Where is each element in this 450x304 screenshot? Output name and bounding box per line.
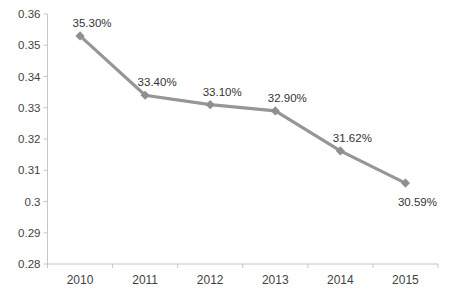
y-axis-tick-label: 0.3 bbox=[25, 196, 41, 208]
data-point-label: 33.40% bbox=[138, 76, 177, 88]
y-axis-tick-label: 0.33 bbox=[18, 102, 40, 114]
chart-canvas: 0.360.350.340.330.320.310.30.290.28 2010… bbox=[0, 0, 450, 304]
y-axis-tick-label: 0.32 bbox=[18, 133, 40, 145]
x-axis-category-label: 2010 bbox=[67, 273, 94, 287]
data-point-label: 33.10% bbox=[203, 86, 242, 98]
data-point-label: 32.90% bbox=[268, 92, 307, 104]
x-axis-category-label: 2014 bbox=[327, 273, 354, 287]
y-axis-tick-label: 0.36 bbox=[18, 8, 40, 20]
series-line bbox=[80, 36, 405, 183]
x-axis-category-label: 2013 bbox=[262, 273, 289, 287]
data-point-label: 35.30% bbox=[73, 17, 112, 29]
x-axis: 201020112012201320142015 bbox=[48, 264, 439, 287]
x-axis-category-label: 2012 bbox=[197, 273, 224, 287]
y-axis-tick-label: 0.29 bbox=[18, 227, 40, 239]
x-axis-category-label: 2015 bbox=[392, 273, 419, 287]
y-axis: 0.360.350.340.330.320.310.30.290.28 bbox=[18, 8, 47, 270]
data-point-label: 31.62% bbox=[333, 132, 372, 144]
line-chart: 0.360.350.340.330.320.310.30.290.28 2010… bbox=[0, 0, 450, 304]
line-series bbox=[75, 31, 410, 187]
y-axis-tick-label: 0.35 bbox=[18, 39, 40, 51]
y-axis-tick-label: 0.28 bbox=[18, 258, 40, 270]
y-axis-tick-label: 0.34 bbox=[18, 71, 41, 83]
data-point-label: 30.59% bbox=[398, 196, 437, 208]
y-axis-tick-label: 0.31 bbox=[18, 164, 40, 176]
x-axis-category-label: 2011 bbox=[132, 273, 158, 287]
data-point-marker bbox=[206, 100, 215, 109]
data-labels: 35.30%33.40%33.10%32.90%31.62%30.59% bbox=[73, 17, 437, 208]
